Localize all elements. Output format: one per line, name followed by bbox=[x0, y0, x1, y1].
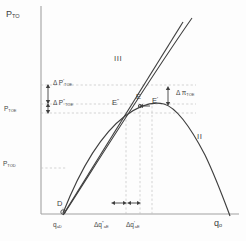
point-label-d: D bbox=[57, 200, 62, 208]
curves-group bbox=[63, 18, 230, 216]
arrowhead-dq-prime-left bbox=[127, 201, 131, 205]
annotation-delta-pi-toe: Δ πTOE bbox=[176, 90, 194, 97]
curve-label-iii: III bbox=[114, 55, 122, 63]
markers-group bbox=[61, 104, 142, 214]
x-axis-label: qo bbox=[214, 219, 222, 229]
x-tick-label-q-ad: qaD bbox=[53, 222, 62, 229]
curve-label-ii: II bbox=[197, 133, 202, 141]
tangent-from-d-path bbox=[64, 18, 192, 214]
arrowhead-dq-dprime-right bbox=[123, 201, 127, 205]
annotation-delta-p-toe-prime: Δ P'TOE bbox=[53, 80, 72, 87]
arrowhead-dq-prime-right bbox=[137, 201, 141, 205]
arrowhead-delta-pi-up bbox=[166, 86, 170, 90]
point-label-e-prime: E' bbox=[152, 97, 158, 105]
point-label-e-double-prime: E'' bbox=[112, 99, 119, 107]
diagram-svg bbox=[0, 0, 246, 241]
x-tick-label-dq-ae-double-prime: Δq''aE bbox=[94, 222, 109, 229]
arrowhead-delta-p-dprime-down bbox=[46, 110, 50, 114]
curve-iii-path bbox=[63, 22, 183, 215]
arrowhead-delta-p-prime-up bbox=[46, 84, 50, 88]
y-axis-label: PTO bbox=[6, 10, 20, 20]
arrowhead-delta-p-dprime-up bbox=[46, 103, 50, 107]
arrowhead-dq-dprime-left bbox=[111, 201, 115, 205]
figure-canvas: PTO qo PTOE PTOD Δ P'TOE Δ P''TOE Δ πTOE… bbox=[0, 0, 246, 241]
y-tick-label-p-toe: PTOE bbox=[4, 106, 17, 113]
curve-ii-path bbox=[63, 103, 230, 216]
point-label-e: E bbox=[136, 93, 141, 101]
annotation-delta-p-toe-double-prime: Δ P''TOE bbox=[53, 100, 73, 107]
y-tick-label-p-tod: PTOD bbox=[3, 161, 16, 168]
x-tick-label-dq-ae-prime: Δq'aE bbox=[126, 222, 140, 229]
